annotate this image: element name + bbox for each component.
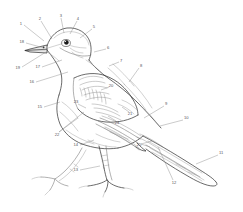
leader-line-1 (24, 25, 44, 41)
leader-line-15 (44, 102, 60, 107)
callout-11: 11 (196, 150, 224, 164)
leader-line-14 (80, 140, 94, 145)
callout-8: 8 (129, 63, 143, 82)
callout-layer: 1 2 3 4 5 6 7 (15, 13, 224, 185)
callout-label-6: 6 (107, 45, 110, 50)
leader-line-6 (94, 49, 106, 52)
callout-label-17: 17 (35, 64, 40, 69)
callout-label-3: 3 (60, 13, 63, 18)
callout-21: 21 (122, 107, 133, 116)
callout-label-11: 11 (219, 150, 224, 155)
callout-label-5: 5 (93, 24, 96, 29)
leader-line-3 (61, 18, 64, 33)
callout-2: 2 (39, 16, 52, 39)
bird-legs-and-feet (32, 146, 133, 197)
callout-label-22: 22 (55, 132, 60, 137)
callout-label-15: 15 (37, 104, 42, 109)
callout-20: 20 (101, 83, 114, 90)
leader-line-13 (80, 166, 100, 170)
bird-anatomy-figure: 1 2 3 4 5 6 7 (0, 0, 243, 212)
leader-line-8 (129, 68, 139, 82)
callout-9: 9 (144, 101, 168, 118)
leader-line-16 (36, 72, 68, 82)
leader-line-10 (160, 120, 183, 126)
leader-line-22b (59, 112, 84, 132)
callout-12: 12 (158, 147, 177, 185)
bird-line-drawing: 1 2 3 4 5 6 7 (0, 0, 243, 212)
callout-6: 6 (94, 45, 110, 52)
leader-line-25b (141, 144, 150, 147)
callout-label-24: 24 (115, 120, 120, 125)
callout-label-18: 18 (19, 39, 24, 44)
callout-label-20: 20 (109, 83, 114, 88)
callout-23: 23 (74, 99, 86, 108)
callout-19: 19 (15, 52, 46, 70)
callout-label-1: 1 (20, 21, 23, 26)
leader-line-23 (78, 104, 86, 108)
callout-label-23: 23 (74, 99, 79, 104)
leader-line-7 (109, 62, 119, 66)
callout-label-2: 2 (39, 16, 42, 21)
leader-line-11 (196, 155, 218, 164)
callout-16: 16 (29, 72, 68, 84)
callout-label-8: 8 (140, 63, 143, 68)
callout-label-12: 12 (172, 180, 177, 185)
callout-label-4: 4 (77, 16, 80, 21)
leader-line-18 (26, 43, 44, 48)
callout-label-14: 14 (73, 142, 78, 147)
callout-label-10: 10 (184, 115, 189, 120)
callout-13: 13 (73, 166, 100, 172)
callout-label-9: 9 (165, 101, 168, 106)
callout-label-7: 7 (120, 58, 123, 63)
leader-line-19 (22, 52, 46, 67)
leader-line-17 (42, 60, 62, 67)
callout-label-25: 25 (137, 142, 142, 147)
callout-22: 22 (55, 112, 84, 137)
eye-highlight (65, 41, 66, 42)
callout-1: 1 (20, 21, 44, 41)
leader-line-5 (80, 29, 92, 38)
callout-7: 7 (109, 58, 123, 66)
leader-line-2 (41, 21, 52, 39)
callout-5: 5 (80, 24, 96, 38)
callout-4: 4 (70, 16, 80, 34)
callout-10: 10 (160, 115, 189, 126)
bird-head-detail (48, 32, 89, 58)
callout-17: 17 (35, 60, 62, 69)
callout-24: 24 (108, 116, 120, 125)
callout-label-19: 19 (15, 65, 20, 70)
callout-label-16: 16 (29, 79, 34, 84)
callout-label-13: 13 (73, 167, 78, 172)
callout-label-21: 21 (128, 111, 133, 116)
